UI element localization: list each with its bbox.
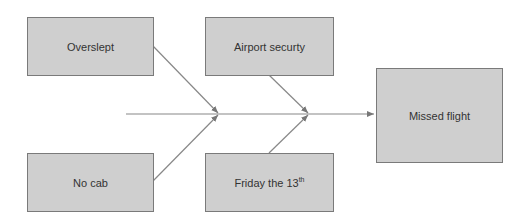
- branch-airport: [269, 75, 308, 113]
- effect-box-missed-flight: Missed flight: [376, 68, 503, 163]
- cause-box-airport-security: Airport securty: [205, 17, 334, 76]
- cause-box-no-cab: No cab: [27, 153, 154, 212]
- cause-box-overslept: Overslept: [27, 17, 154, 76]
- cause-label: Friday the 13th: [234, 176, 304, 189]
- branch-friday: [269, 115, 308, 153]
- effect-label: Missed flight: [409, 110, 470, 122]
- cause-label: No cab: [73, 177, 108, 189]
- cause-label: Airport securty: [234, 41, 305, 53]
- cause-box-friday-13th: Friday the 13th: [205, 153, 334, 212]
- cause-label: Overslept: [67, 41, 114, 53]
